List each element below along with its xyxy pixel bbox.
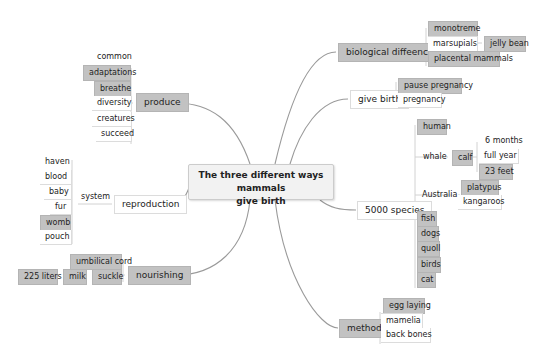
subtopic-milk[interactable]: milk [63,269,87,285]
subtopic-human[interactable]: human [417,119,447,135]
subtopic-back-bones[interactable]: back bones [381,328,431,343]
subtopic-23-feet[interactable]: 23 feet [479,164,513,180]
subtopic-australia[interactable]: Australia [417,188,462,202]
link-biological [275,52,336,164]
topic-reproduction[interactable]: reproduction [114,195,187,214]
subtopic-whale[interactable]: whale [418,150,452,164]
central-topic-line2: give birth [193,195,329,208]
link-produce [176,103,250,164]
subtopic-egg-laying[interactable]: egg laying [383,298,425,314]
link-give-birth [290,99,348,164]
subtopic-marsupials[interactable]: marsupials [428,36,478,52]
topic-produce[interactable]: produce [136,93,189,112]
subtopic-breathe[interactable]: breathe [94,81,131,97]
subtopic-monotreme[interactable]: monotreme [428,21,478,37]
subtopic-womb[interactable]: womb [40,215,71,231]
subtopic-haven[interactable]: haven [40,155,72,169]
subtopic-full-year[interactable]: full year [479,149,519,164]
subtopic-birds[interactable]: birds [417,257,441,273]
subtopic-225-liters[interactable]: 225 liters [18,269,58,285]
subtopic-creatures[interactable]: creatures [92,112,132,127]
subtopic-mamelia[interactable]: mamelia [381,313,423,329]
subtopic-baby[interactable]: baby [44,185,72,200]
subtopic-adaptations[interactable]: adaptations [83,65,131,81]
link-method [275,200,338,328]
subtopic-quoll[interactable]: quoll [417,241,440,257]
subtopic-platypus[interactable]: platypus [461,180,499,196]
central-topic[interactable]: The three different ways mammals give bi… [188,164,334,200]
subtopic-kangaroos[interactable]: kangaroos [458,195,502,210]
subtopic-placental-mammals[interactable]: placental mammals [428,51,500,67]
subtopic-jelly-bean[interactable]: jelly bean [484,36,526,52]
subtopic-succeed[interactable]: succeed [96,127,132,142]
subtopic-system[interactable]: system [76,190,115,204]
central-topic-line1: The three different ways mammals [193,169,329,195]
subtopic-fish[interactable]: fish [417,211,437,227]
subtopic-common[interactable]: common [92,50,132,64]
subtopic-6-months[interactable]: 6 months [480,134,528,148]
subtopic-pouch[interactable]: pouch [40,230,72,245]
subtopic-fur[interactable]: fur [50,200,72,215]
subtopic-cat[interactable]: cat [417,272,436,288]
subtopic-suckle[interactable]: suckle [92,269,122,285]
subtopic-diversity[interactable]: diversity [92,96,132,111]
subtopic-dogs[interactable]: dogs [417,226,439,242]
subtopic-blood[interactable]: blood [40,170,72,185]
subtopic-pause-pregnancy[interactable]: pause pregnancy [398,78,462,94]
topic-nourishing[interactable]: nourishing [128,266,191,285]
subtopic-umbilical-cord[interactable]: umbilical cord [70,254,122,270]
subtopic-calf[interactable]: calf [452,150,473,166]
subtopic-pregnancy[interactable]: pregnancy [398,93,442,108]
